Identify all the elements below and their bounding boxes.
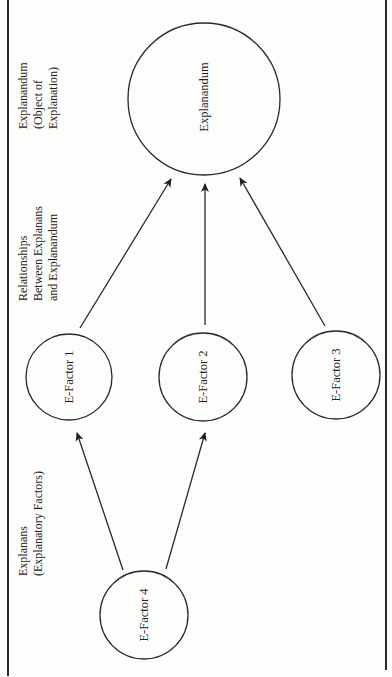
- arrow-ef1-to-explanandum: [80, 179, 171, 328]
- column-label-explanans: Explanans (Explanatory Factors): [16, 471, 45, 576]
- node-explanandum: Explanandum: [128, 23, 280, 175]
- e-factor-2-label: E-Factor 2: [196, 350, 210, 403]
- arrow-ef3-to-explanandum: [240, 178, 325, 326]
- arrow-ef4-to-ef2: [166, 433, 205, 569]
- column-label-line: Explanation): [46, 67, 60, 129]
- node-e-factor-4: E-Factor 4: [100, 571, 188, 659]
- explanation-diagram: Explanandum (Object of Explanation) Rela…: [0, 0, 392, 677]
- column-label-line: Explanandum: [16, 62, 30, 129]
- column-label-line: and Explanandum: [46, 213, 60, 301]
- arrow-ef4-to-ef1: [77, 433, 123, 570]
- e-factor-4-label: E-Factor 4: [137, 588, 151, 642]
- column-label-explanandum: Explanandum (Object of Explanation): [16, 62, 60, 129]
- node-e-factor-1: E-Factor 1: [26, 334, 112, 420]
- column-label-line: (Object of: [31, 80, 45, 129]
- column-label-line: (Explanatory Factors): [31, 471, 45, 576]
- explanandum-label: Explanandum: [197, 62, 211, 132]
- node-e-factor-3: E-Factor 3: [292, 331, 380, 419]
- e-factor-1-label: E-Factor 1: [62, 350, 76, 403]
- column-label-line: Between Explanans: [31, 206, 45, 301]
- node-e-factor-2: E-Factor 2: [159, 333, 247, 421]
- column-label-relationships: Relationships Between Explanans and Expl…: [16, 206, 60, 301]
- e-factor-3-label: E-Factor 3: [329, 348, 343, 401]
- column-label-line: Explanans: [16, 526, 30, 576]
- column-label-line: Relationships: [16, 235, 30, 301]
